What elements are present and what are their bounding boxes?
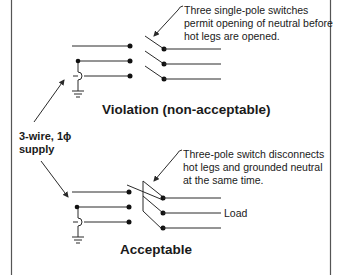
acceptable-callout: Three-pole switch disconnects hot legs a… [183,148,327,186]
violation-callout: Three single-pole switches permit openin… [184,4,336,42]
violation-title: Violation (non-acceptable) [102,102,271,117]
single-pole-switches [145,36,164,79]
wiring-diagram: Three single-pole switches permit openin… [0,0,341,275]
supply-arrow-up [34,80,64,122]
violation-callout-leader [154,6,183,36]
neutral-crossover [78,207,82,237]
ground-icon [72,91,84,97]
load-label: Load [224,207,248,219]
neutral-crossover [78,61,82,91]
three-pole-switch [127,181,163,230]
acceptable-title: Acceptable [120,242,193,257]
acceptable-callout-leader [154,150,182,181]
supply-arrow-down [41,161,68,197]
ground-icon [72,237,84,243]
supply-label: 3-wire, 1ϕ supply [19,130,74,155]
